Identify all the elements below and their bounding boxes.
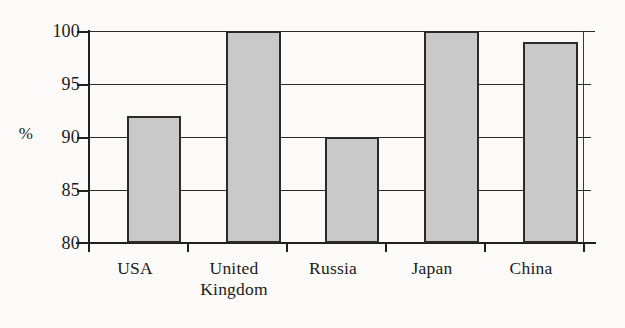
- x-category-label-uk-line2: Kingdom: [184, 279, 284, 300]
- x-category-label-russia: Russia: [283, 258, 383, 279]
- x-tick-mark-4: [484, 243, 486, 252]
- gridline-100: [88, 31, 595, 32]
- bar-russia: [325, 137, 379, 243]
- x-category-label-usa: USA: [85, 258, 185, 279]
- x-tick-mark-5: [583, 243, 585, 252]
- y-tick-label-85: 85: [34, 181, 80, 199]
- y-tick-label-100: 100: [34, 22, 80, 40]
- x-category-label-russia-line1: Russia: [309, 258, 357, 278]
- x-tick-mark-3: [385, 243, 387, 252]
- plot-area: [88, 31, 583, 243]
- y-tick-label-90: 90: [34, 128, 80, 146]
- y-tick-label-80: 80: [34, 234, 80, 252]
- bar-usa: [127, 116, 181, 243]
- plot-right-border: [583, 31, 584, 243]
- bar-japan: [424, 31, 479, 243]
- x-tick-mark-2: [286, 243, 288, 252]
- x-category-label-china: China: [481, 258, 581, 279]
- bar-chart: % 100 95 90 85 80 U: [0, 0, 625, 328]
- x-category-label-united-kingdom: United Kingdom: [184, 258, 284, 300]
- x-tick-mark-1: [187, 243, 189, 252]
- bar-united-kingdom: [226, 31, 281, 243]
- y-tick-label-95: 95: [34, 75, 80, 93]
- y-axis-line: [88, 30, 90, 244]
- x-category-label-japan-line1: Japan: [412, 258, 453, 278]
- x-category-label-uk-line1: United: [210, 258, 259, 278]
- x-category-label-china-line1: China: [510, 258, 553, 278]
- gridline-95: [88, 84, 591, 85]
- bar-china: [523, 42, 578, 243]
- x-category-label-usa-line1: USA: [117, 258, 153, 278]
- x-tick-mark-0: [88, 243, 90, 252]
- x-category-label-japan: Japan: [382, 258, 482, 279]
